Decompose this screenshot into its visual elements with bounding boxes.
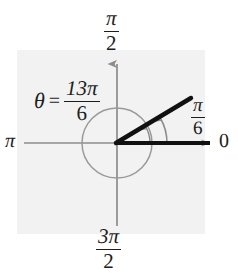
- axis-label-zero: 0: [219, 131, 229, 151]
- theta-equation-label: θ = 13π 6: [34, 78, 100, 125]
- axis-label-three-pi-over-2: 3π 2: [96, 226, 121, 273]
- fraction-thirteen-pi-over-6: 13π 6: [64, 78, 100, 125]
- theta-symbol: θ: [34, 90, 45, 112]
- equals-symbol: =: [49, 91, 60, 111]
- unit-circle-figure: π 2 3π 2 π 0 θ = 13π 6 π 6: [0, 0, 238, 278]
- axis-label-pi-over-2: π 2: [104, 8, 119, 55]
- axis-label-pi: π: [5, 131, 15, 151]
- fraction-numerator: π: [191, 96, 205, 118]
- fraction-numerator: 13π: [64, 78, 100, 102]
- fraction-pi-over-6: π 6: [191, 96, 205, 139]
- fraction-denominator: 6: [191, 118, 205, 139]
- reference-angle-label: π 6: [191, 96, 205, 139]
- fraction-numerator: 3π: [96, 226, 121, 250]
- origin-point: [115, 141, 118, 144]
- fraction-denominator: 6: [64, 102, 100, 125]
- fraction-pi-over-2: π 2: [104, 8, 119, 55]
- fraction-denominator: 2: [104, 32, 119, 55]
- fraction-numerator: π: [104, 8, 119, 32]
- fraction-three-pi-over-2: 3π 2: [96, 226, 121, 273]
- fraction-denominator: 2: [96, 250, 121, 273]
